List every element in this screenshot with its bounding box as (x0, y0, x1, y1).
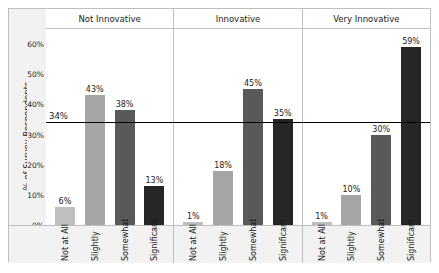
bar-value-label: 18% (214, 161, 232, 170)
panel-0: 6%43%38%13% (46, 29, 174, 225)
x-tick-slot: Slightly (341, 226, 361, 263)
plot-area: 6%43%38%13%1%18%45%35%1%10%30%59% (46, 29, 430, 225)
bar[interactable] (401, 47, 421, 225)
bar-value-label: 59% (402, 37, 420, 46)
bar-value-label: 13% (146, 176, 164, 185)
y-axis-tick-label: 10% (14, 190, 44, 199)
bar-group: 1%18%45%35% (174, 29, 301, 225)
x-axis-tick-label: Significant (407, 219, 416, 261)
x-axis-tick-label: Not at All (189, 224, 198, 261)
x-tick-panel-0: Not at AllSlightlySomewhatSignificant (46, 226, 174, 263)
x-tick-panel-1: Not at AllSlightlySomewhatSignificant (174, 226, 302, 263)
x-tick-slot: Somewhat (115, 226, 135, 263)
bar[interactable] (85, 95, 105, 225)
x-tick-panel-2: Not at AllSlightlySomewhatSignificant (303, 226, 430, 263)
y-axis-tick-label: 20% (14, 160, 44, 169)
x-tick-slot: Slightly (85, 226, 105, 263)
y-axis-tick-label: 40% (14, 100, 44, 109)
panel-title-0: Not Innovative (46, 9, 174, 28)
bar-value-label: 38% (116, 100, 134, 109)
x-tick-slot: Significant (401, 226, 421, 263)
panel-2: 1%10%30%59% (303, 29, 430, 225)
x-axis-tick-label: Somewhat (120, 219, 129, 261)
bar-group: 6%43%38%13% (46, 29, 173, 225)
x-tick-slot: Somewhat (371, 226, 391, 263)
x-axis-tick-label: Significant (278, 219, 287, 261)
bar[interactable] (371, 135, 391, 225)
x-axis-tick-band: Not at AllSlightlySomewhatSignificantNot… (46, 225, 430, 263)
reference-line-label: 34% (49, 111, 68, 122)
y-axis-tick-label: 50% (14, 70, 44, 79)
reference-line (46, 122, 430, 123)
bar-value-label: 1% (315, 212, 328, 221)
bar-value-label: 10% (343, 185, 361, 194)
y-axis-tick-label: 30% (14, 130, 44, 139)
x-axis-tick-label: Somewhat (248, 219, 257, 261)
bar[interactable] (341, 195, 361, 225)
x-tick-slot: Not at All (183, 226, 203, 263)
chart-frame: % of Survey Respondents 0%10%20%30%40%50… (8, 8, 431, 262)
bar[interactable] (55, 207, 75, 225)
bar-slot: 1% (312, 29, 332, 225)
bar-value-label: 30% (372, 125, 390, 134)
chart-root: % of Survey Respondents 0%10%20%30%40%50… (0, 0, 439, 273)
x-tick-slot: Not at All (312, 226, 332, 263)
bar[interactable] (213, 171, 233, 225)
bar-slot: 13% (144, 29, 164, 225)
bar-value-label: 45% (244, 79, 262, 88)
bar-value-label: 43% (86, 85, 104, 94)
x-tick-slot: Somewhat (243, 226, 263, 263)
bar[interactable] (273, 119, 293, 225)
bar-slot: 18% (213, 29, 233, 225)
bar-value-label: 1% (187, 212, 200, 221)
panel-title-2: Very Innovative (303, 9, 430, 28)
bar[interactable] (115, 110, 135, 225)
panel-1: 1%18%45%35% (174, 29, 302, 225)
bar-slot: 10% (341, 29, 361, 225)
x-tick-slot: Slightly (213, 226, 233, 263)
y-axis-tick-label: 60% (14, 40, 44, 49)
bar-slot: 45% (243, 29, 263, 225)
x-axis-tick-label: Slightly (90, 231, 99, 261)
bar-slot: 59% (401, 29, 421, 225)
bar-value-label: 6% (59, 197, 72, 206)
x-axis-tick-label: Significant (150, 219, 159, 261)
x-axis-tick-label: Not at All (60, 224, 69, 261)
x-tick-slot: Significant (144, 226, 164, 263)
x-axis-tick-label: Slightly (347, 231, 356, 261)
bar-slot: 43% (85, 29, 105, 225)
bar-slot: 38% (115, 29, 135, 225)
bar-slot: 30% (371, 29, 391, 225)
bar-slot: 6% (55, 29, 75, 225)
x-tick-slot: Not at All (55, 226, 75, 263)
x-axis-tick-label: Somewhat (377, 219, 386, 261)
panel-header-row: Not InnovativeInnovativeVery Innovative (46, 9, 430, 29)
bar-slot: 1% (183, 29, 203, 225)
bar[interactable] (243, 89, 263, 225)
x-axis-tick-label: Slightly (219, 231, 228, 261)
bar-group: 1%10%30%59% (303, 29, 430, 225)
x-axis-tick-label: Not at All (317, 224, 326, 261)
axis-corner-block (9, 225, 46, 263)
panel-title-1: Innovative (174, 9, 302, 28)
bar-slot: 35% (273, 29, 293, 225)
x-tick-slot: Significant (273, 226, 293, 263)
bar-value-label: 35% (274, 109, 292, 118)
